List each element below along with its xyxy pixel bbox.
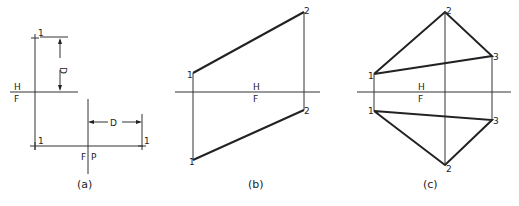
label-f: F <box>253 94 258 104</box>
point-label-1-bottom: 1 <box>368 106 374 116</box>
label-f: F <box>14 94 19 104</box>
arrowhead-left-icon <box>88 120 94 124</box>
point-label-2-top: 2 <box>304 6 310 16</box>
label-h: H <box>418 82 425 92</box>
panel-a: D H F 1 1 F P 1 D (a) <box>10 28 150 191</box>
line-12-top-view <box>193 12 304 73</box>
line-12-front-view <box>193 110 304 160</box>
panel-b: H F 1 1 2 2 (b) <box>175 6 320 191</box>
point-label-1-top: 1 <box>187 70 193 80</box>
point-label-1-top: 1 <box>368 71 374 81</box>
point-label-2-top: 2 <box>446 6 452 16</box>
point-label-2-bottom: 2 <box>446 164 452 174</box>
label-h: H <box>253 82 260 92</box>
plane-123-front-view <box>374 111 492 165</box>
point-label-1-bottom: 1 <box>189 157 195 167</box>
caption-a: (a) <box>77 178 92 191</box>
point-label-top: 1 <box>38 28 44 38</box>
panel-c: H F 1 1 2 2 3 3 (c) <box>357 6 511 191</box>
point-label-3-bottom: 3 <box>493 116 499 126</box>
caption-c: (c) <box>423 178 438 191</box>
arrowhead-up-icon <box>58 38 62 44</box>
arrowhead-right-icon <box>136 120 142 124</box>
point-label-bottom-left: 1 <box>38 136 44 146</box>
caption-b: (b) <box>248 178 264 191</box>
label-fold-p: P <box>91 152 97 162</box>
arrowhead-down-icon <box>58 85 62 91</box>
label-fold-f: F <box>81 152 86 162</box>
label-f: F <box>418 94 423 104</box>
dimension-label-d-right: D <box>110 118 117 128</box>
point-label-2-bottom: 2 <box>304 106 310 116</box>
point-label-3-top: 3 <box>493 52 499 62</box>
dimension-label-d-top: D <box>58 67 68 74</box>
plane-123-top-view <box>374 12 492 74</box>
label-h: H <box>14 82 21 92</box>
orthographic-projection-figure: D H F 1 1 F P 1 D (a) H F 1 1 2 2 (b) <box>0 0 519 206</box>
point-label-bottom-right: 1 <box>144 136 150 146</box>
